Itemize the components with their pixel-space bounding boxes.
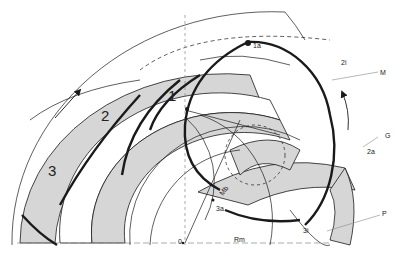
band-label-1: 1 (168, 88, 176, 103)
callout-label-m: M (380, 69, 386, 76)
point-label-origin: 0 (178, 238, 182, 245)
point-label-3a: 3a (216, 205, 224, 212)
technical-diagram (0, 0, 397, 255)
band-label-3: 3 (48, 163, 56, 178)
point-label-2a: 2a (367, 148, 375, 155)
point-label-3i: 3i (303, 227, 308, 234)
callout-label-g: G (385, 132, 390, 139)
dimension-label-rm: Rm (234, 236, 245, 243)
band-label-2: 2 (101, 108, 109, 123)
point-label-1a: 1a (253, 42, 261, 49)
shaded-bands (20, 74, 355, 245)
arrow-rotation-left (55, 90, 80, 118)
point-label-2i: 2i (341, 59, 346, 66)
arrow-rotation-right (342, 92, 348, 130)
callout-label-p: P (382, 210, 387, 217)
